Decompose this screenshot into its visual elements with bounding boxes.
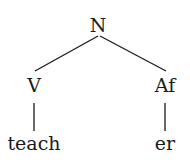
morphology-tree: N V Af teach er	[0, 0, 190, 166]
leaf-er: er	[155, 132, 176, 154]
node-af: Af	[154, 74, 177, 96]
node-n: N	[90, 14, 107, 36]
edge-n-v	[35, 36, 98, 71]
node-v: V	[26, 74, 41, 96]
leaf-teach: teach	[7, 132, 60, 154]
edge-n-af	[100, 36, 166, 71]
